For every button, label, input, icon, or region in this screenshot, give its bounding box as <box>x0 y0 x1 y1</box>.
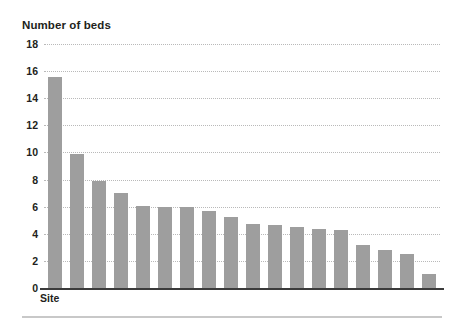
y-axis-tick-label: 8 <box>12 174 38 186</box>
bar <box>334 230 349 288</box>
y-axis-tick-label: 6 <box>12 201 38 213</box>
bar <box>290 227 305 288</box>
y-axis-tick-label: 10 <box>12 146 38 158</box>
bar <box>224 217 239 288</box>
chart-title: Number of beds <box>22 19 111 31</box>
x-axis-label: Site <box>40 292 59 304</box>
bar <box>136 206 151 288</box>
bar <box>180 207 195 288</box>
x-axis-baseline <box>40 288 444 290</box>
footer-divider <box>22 316 442 318</box>
y-axis-tick-labels: 024681012141618 <box>10 44 38 288</box>
bar <box>268 225 283 288</box>
bar <box>114 193 129 288</box>
bar <box>246 224 261 288</box>
bar <box>356 245 371 288</box>
bar <box>202 211 217 288</box>
bar <box>422 274 437 288</box>
y-axis-tick-label: 16 <box>12 65 38 77</box>
bar <box>70 154 85 288</box>
y-axis-tick-label: 14 <box>12 92 38 104</box>
y-axis-tick-label: 4 <box>12 228 38 240</box>
y-axis-tick-label: 2 <box>12 255 38 267</box>
bar <box>48 77 63 288</box>
y-axis-tick-label: 12 <box>12 119 38 131</box>
chart-figure: Number of beds 024681012141618 Site <box>0 0 464 326</box>
bar <box>400 254 415 288</box>
bar <box>158 207 173 288</box>
bar <box>312 229 327 288</box>
y-axis-tick-label: 0 <box>12 282 38 294</box>
bar <box>378 250 393 288</box>
bar <box>92 181 107 288</box>
y-axis-tick-label: 18 <box>12 38 38 50</box>
bar-series <box>44 44 440 288</box>
